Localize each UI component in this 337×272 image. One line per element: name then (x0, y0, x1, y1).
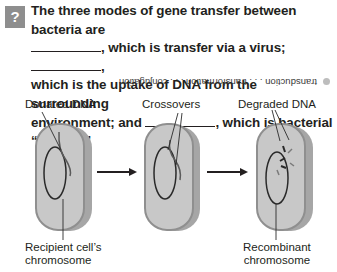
blank-1 (31, 41, 101, 52)
label-line: chromosome (25, 254, 91, 266)
label-crossovers: Crossovers (142, 98, 200, 111)
label-donated-dna: Donated DNA (25, 98, 96, 111)
label-recipient-chromosome: Recipient cell’s chromosome (25, 241, 102, 267)
question-line-1: The three modes of gene transfer between… (31, 3, 296, 37)
upside-down-answer: transduction . . . transformation . . . … (80, 76, 330, 88)
gene-transfer-diagram: Donated DNA Recipient cell’s chromosome … (0, 95, 337, 272)
label-line: chromosome (244, 254, 310, 266)
label-degraded-dna: Degraded DNA (238, 98, 316, 111)
blank-2 (31, 60, 101, 71)
question-mark-icon: ? (5, 6, 25, 28)
arrow-2 (207, 168, 248, 176)
arrow-1 (97, 168, 137, 176)
answer-bullet-icon (323, 78, 330, 85)
label-recombinant-chromosome: Recombinant chromosome (243, 241, 311, 267)
bacterial-cell-3 (257, 110, 313, 240)
bacterial-cell-1 (36, 112, 92, 240)
label-line: Recipient cell’s (25, 241, 102, 253)
question-fragment: , which is transfer via a virus; (101, 40, 285, 55)
question-fragment: , (101, 59, 105, 74)
bacterial-cell-2 (145, 113, 200, 231)
answer-text: transduction . . . transformation . . . … (119, 77, 317, 88)
label-line: Recombinant (243, 241, 311, 253)
